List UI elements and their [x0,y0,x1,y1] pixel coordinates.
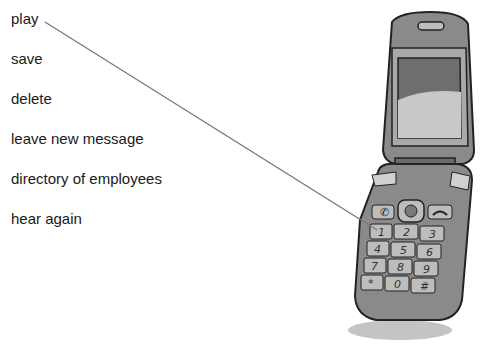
key-hash-label: # [420,280,429,293]
phone-illustration: ✆ 1 2 3 4 5 6 7 8 9 * 0 # [0,0,481,346]
key-8-label: 8 [397,261,404,274]
key-7-label: 7 [371,260,378,273]
connector-line-play-to-1 [45,22,377,230]
earpiece [418,22,444,30]
key-star-label: * [368,277,374,290]
key-1-label: 1 [378,226,385,239]
key-2-label: 2 [403,226,410,239]
key-4-label: 4 [374,243,381,256]
nav-center-icon [405,205,417,217]
screen-glare [398,91,461,138]
key-9-label: 9 [423,263,430,276]
number-keypad: 1 2 3 4 5 6 7 8 9 * 0 # [361,224,444,293]
phone-shadow [348,320,452,340]
key-3-label: 3 [429,228,436,241]
phone-flip-top [383,12,474,164]
call-icon: ✆ [380,206,389,218]
key-6-label: 6 [426,246,433,259]
key-0-label: 0 [394,278,401,291]
key-5-label: 5 [400,244,407,257]
